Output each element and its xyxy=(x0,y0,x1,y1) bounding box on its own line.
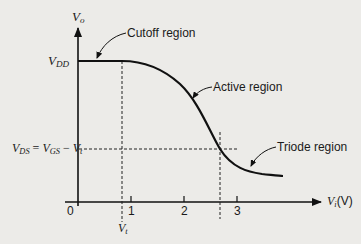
cutoff-callout-arrow xyxy=(97,33,126,58)
vt-sub: t xyxy=(125,227,127,236)
vtc-diagram: Vo VDD VDS = VGS − Vt 0 1 2 3 Vt Vi(V) C… xyxy=(0,0,361,244)
vds-eq-s3: t xyxy=(80,147,82,156)
y-axis-label-main: V xyxy=(72,9,80,24)
vdd-main: V xyxy=(48,53,56,68)
tick-label-3: 3 xyxy=(234,205,241,217)
vds-eq-v3: V xyxy=(73,141,80,155)
x-axis xyxy=(65,196,321,202)
vds-eq-v2: V xyxy=(42,141,49,155)
vds-eq-s2: GS xyxy=(50,147,60,156)
vds-eq-op: = xyxy=(30,141,43,155)
vds-eq-minus: − xyxy=(60,141,73,155)
vdd-label: VDD xyxy=(48,54,69,69)
active-callout-arrow xyxy=(193,87,212,98)
y-axis-label-sub: o xyxy=(80,15,85,25)
vds-eq-s1: DS xyxy=(19,147,29,156)
vds-equation-label: VDS = VGS − Vt xyxy=(12,142,82,157)
tick-label-1: 1 xyxy=(128,205,135,217)
vt-label: Vt xyxy=(118,222,128,237)
tick-label-0: 0 xyxy=(67,205,74,217)
triode-callout-arrow xyxy=(251,147,276,166)
vtc-curve xyxy=(78,61,283,176)
triode-region-label: Triode region xyxy=(277,141,347,153)
cutoff-region-label: Cutoff region xyxy=(127,27,196,39)
tick-label-2: 2 xyxy=(181,205,188,217)
x-axis-label: Vi(V) xyxy=(327,195,353,210)
y-axis-label: Vo xyxy=(72,10,85,25)
active-region-label: Active region xyxy=(213,81,282,93)
x-axis-label-unit: (V) xyxy=(337,194,353,208)
vdd-sub: DD xyxy=(56,59,69,69)
